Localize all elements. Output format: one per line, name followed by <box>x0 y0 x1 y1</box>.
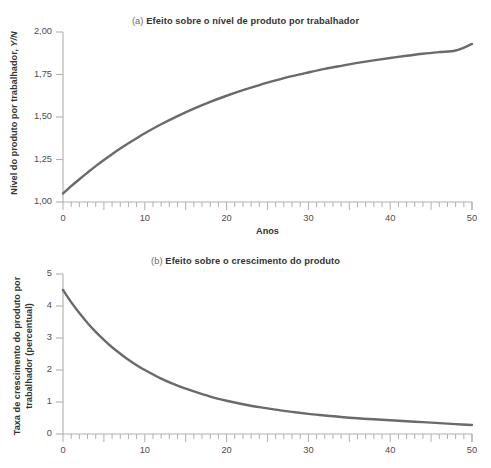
ytick-label: 1 <box>47 396 52 406</box>
chart-panel-a: (a) Efeito sobre o nível de produto por … <box>0 0 491 240</box>
xtick-label: 20 <box>207 445 247 455</box>
xtick-label: 0 <box>43 213 83 223</box>
ytick-label: 3 <box>47 332 52 342</box>
xtick-label: 40 <box>370 213 410 223</box>
ytick-label: 1,25 <box>34 154 52 164</box>
xtick-label: 30 <box>288 445 328 455</box>
chart-panel-b: (b) Efeito sobre o crescimento do produt… <box>0 240 491 468</box>
xtick-label: 10 <box>125 213 165 223</box>
panel-b-ylabel-line2: trabalhador (percentual) <box>24 263 34 449</box>
xtick-label: 50 <box>452 445 491 455</box>
ytick-label: 2,00 <box>34 26 52 36</box>
panel-a-plot <box>0 0 491 240</box>
ytick-label: 5 <box>47 268 52 278</box>
figure-container: (a) Efeito sobre o nível de produto por … <box>0 0 491 468</box>
panel-b-ylabel-line1: Taxa de crescimento do produto por <box>12 263 22 449</box>
xtick-label: 40 <box>370 445 410 455</box>
ytick-label: 1,75 <box>34 69 52 79</box>
xtick-label: 30 <box>288 213 328 223</box>
ytick-label: 1,50 <box>34 111 52 121</box>
panel-b-plot <box>0 240 491 468</box>
xtick-label: 50 <box>452 213 491 223</box>
ytick-label: 0 <box>47 428 52 438</box>
xtick-label: 20 <box>207 213 247 223</box>
xtick-label: 0 <box>43 445 83 455</box>
xtick-label: 10 <box>125 445 165 455</box>
ytick-label: 2 <box>47 364 52 374</box>
ytick-label: 4 <box>47 300 52 310</box>
ytick-label: 1,00 <box>34 196 52 206</box>
